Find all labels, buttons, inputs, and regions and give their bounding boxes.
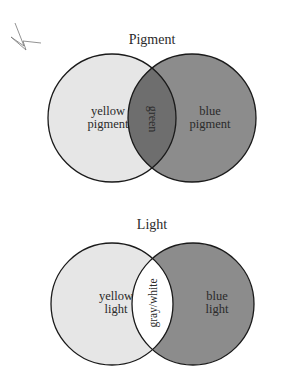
pigment-title: Pigment — [129, 32, 176, 47]
venn-diagrams: Pigment yellow pigment blue pigment gree… — [0, 0, 302, 381]
yellow-pigment-label-1: yellow — [91, 104, 125, 118]
blue-pigment-label-2: pigment — [190, 117, 231, 131]
blue-light-label-2: light — [206, 302, 229, 316]
pen-mark-icon — [11, 23, 41, 50]
pigment-diagram: Pigment yellow pigment blue pigment gree… — [48, 32, 256, 182]
yellow-light-label-2: light — [105, 302, 128, 316]
yellow-light-label-1: yellow — [99, 289, 133, 303]
gray-white-label: gray/white — [147, 278, 160, 327]
light-diagram: Light yellow light blue light gray/white — [51, 217, 254, 365]
light-title: Light — [137, 217, 167, 232]
yellow-pigment-label-2: pigment — [88, 117, 129, 131]
green-label: green — [146, 106, 160, 133]
blue-light-label-1: blue — [206, 289, 228, 303]
blue-pigment-label-1: blue — [199, 104, 221, 118]
